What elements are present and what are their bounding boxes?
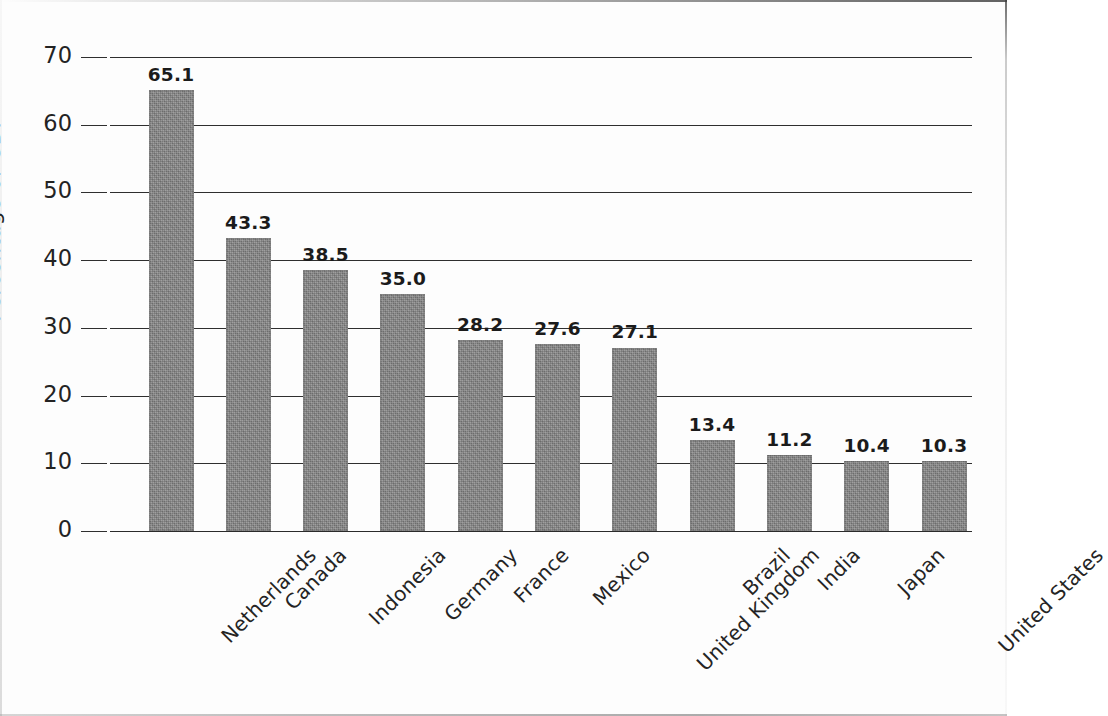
bar-canada[interactable] [226,238,271,531]
y-tick-label-30: 30 [4,313,72,339]
x-axis-label-germany: Germany [439,543,522,626]
bar-brazil[interactable] [690,440,735,531]
bar-united-kingdom[interactable] [612,348,657,532]
bar-value-label-indonesia: 38.5 [281,244,371,265]
bar-value-label-netherlands: 65.1 [126,64,216,85]
gridline-50 [110,192,972,193]
y-tick-20 [81,396,107,397]
y-tick-60 [81,125,107,126]
y-tick-label-20: 20 [4,381,72,407]
gridline-70 [110,57,972,58]
y-tick-label-70: 70 [4,42,72,68]
y-tick-label-60: 60 [4,110,72,136]
y-tick-0 [81,531,107,532]
bar-mexico[interactable] [535,344,580,531]
y-tick-label-50: 50 [4,177,72,203]
x-axis-label-india: India [813,543,865,595]
bar-united-states[interactable] [922,461,967,531]
bar-value-label-canada: 43.3 [203,212,293,233]
bar-indonesia[interactable] [303,270,348,531]
y-tick-70 [81,57,107,58]
gridline-60 [110,125,972,126]
scan-edge-top [0,0,1007,2]
gridline-0 [110,531,972,532]
x-axis-label-united-states: United States [993,543,1108,658]
bar-value-label-united-kingdom: 27.1 [590,321,680,342]
y-tick-label-10: 10 [4,448,72,474]
bar-india[interactable] [767,455,812,531]
x-axis-label-france: France [509,543,574,608]
bar-netherlands[interactable] [149,90,194,531]
x-axis-label-mexico: Mexico [587,543,654,610]
y-tick-30 [81,328,107,329]
y-tick-label-40: 40 [4,245,72,271]
bar-value-label-united-states: 10.3 [899,435,989,456]
y-tick-40 [81,260,107,261]
bar-france[interactable] [458,340,503,531]
bar-japan[interactable] [844,461,889,531]
x-axis-label-indonesia: Indonesia [363,543,450,630]
bar-value-label-germany: 35.0 [358,268,448,289]
y-tick-label-0: 0 [4,516,72,542]
scan-edge-right [1005,0,1007,716]
y-tick-10 [81,463,107,464]
x-axis-label-japan: Japan [892,543,949,600]
y-tick-50 [81,192,107,193]
bar-germany[interactable] [380,294,425,531]
plot-area: 010203040506070 65.143.338.535.028.227.6… [110,57,972,531]
